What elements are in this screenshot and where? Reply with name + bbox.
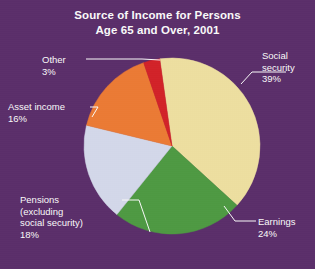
slice-label-other-value: 3% [42,66,84,78]
slice-label-asset-income-name: Asset income [8,101,94,113]
slice-label-social-security: Social security 39% [262,50,295,85]
slice-label-earnings-value: 24% [258,228,296,240]
slice-label-social-security-name-1: Social [262,50,295,62]
slice-label-earnings: Earnings 24% [258,216,296,239]
slice-label-earnings-name: Earnings [258,216,296,228]
slice-label-other-name: Other [42,54,84,66]
slice-label-pensions: Pensions (excluding social security) 18% [20,194,120,240]
pie-chart-figure: Source of Income for Persons Age 65 and … [0,0,315,269]
slice-label-other: Other 3% [42,54,84,77]
slice-label-asset-income: Asset income 16% [8,101,94,124]
slice-label-pensions-line-3: social security) [20,217,120,229]
leader-line-other [86,59,160,60]
slice-label-pensions-line-1: Pensions [20,194,120,206]
slice-label-pensions-value: 18% [20,229,120,241]
slice-label-pensions-line-2: (excluding [20,206,120,218]
slice-label-social-security-value: 39% [262,73,295,85]
slice-label-asset-income-value: 16% [8,113,94,125]
slice-label-social-security-name-2: security [262,62,295,74]
